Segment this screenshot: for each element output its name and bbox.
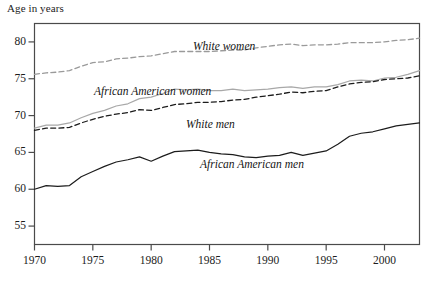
y-tick-label-55: 55 [2, 220, 26, 232]
y-tick-label-65: 65 [2, 146, 26, 158]
y-tick-label-70: 70 [2, 110, 26, 122]
series-label-white-women: White women [193, 40, 255, 52]
y-tick-label-80: 80 [2, 36, 26, 48]
x-tick-label-1985: 1985 [190, 255, 230, 267]
series-line-african-american-men [35, 123, 420, 189]
x-tick-label-1970: 1970 [15, 255, 55, 267]
y-tick-label-75: 75 [2, 73, 26, 85]
life-expectancy-chart: Age in years 556065707580 19701975198019… [0, 0, 436, 284]
x-tick-label-2000: 2000 [365, 255, 405, 267]
y-tick-label-60: 60 [2, 183, 26, 195]
series-label-african-american-men: African American men [200, 158, 304, 170]
x-tick-label-1990: 1990 [248, 255, 288, 267]
x-tick-label-1980: 1980 [131, 255, 171, 267]
series-label-african-american-women: African American women [94, 85, 211, 97]
y-axis-ticks [29, 42, 35, 226]
x-axis-ticks [35, 245, 385, 251]
series-label-white-men: White men [186, 118, 235, 130]
x-tick-label-1975: 1975 [73, 255, 113, 267]
x-tick-label-1995: 1995 [306, 255, 346, 267]
plot-frame [35, 24, 420, 245]
